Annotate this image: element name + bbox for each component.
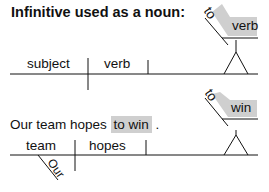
diagram-2-verb: hopes <box>89 138 126 153</box>
diagram-1-verb: verb <box>104 56 130 71</box>
sentence-end: . <box>152 117 160 132</box>
diagram-1-subject: subject <box>27 56 70 71</box>
diagram-1-infinitive-verb: verb <box>232 18 258 33</box>
diagram-2-infinitive-verb: win <box>231 100 251 115</box>
diagram-1-lines <box>10 18 258 90</box>
sentence-start: Our team hopes <box>10 117 111 132</box>
sentence-infinitive-highlight: to win <box>111 116 152 133</box>
sentence-diagrams <box>0 0 269 192</box>
diagram-2-subject: team <box>26 138 56 153</box>
example-sentence: Our team hopes to win . <box>10 117 159 132</box>
